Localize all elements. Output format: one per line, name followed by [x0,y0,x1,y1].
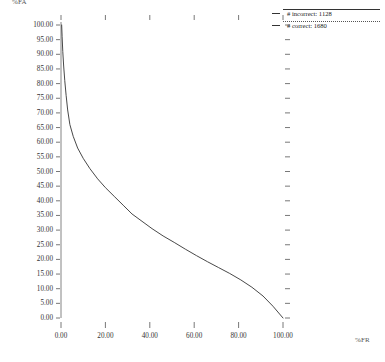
y-tick-label-17: 85.00 [7,65,53,73]
x-tick-label-4: 80.00 [219,332,259,340]
chart-legend: # incorrect: 1128 # correct: 1680 [283,9,380,31]
x-tick-label-1: 20.00 [85,332,125,340]
y-tick-label-3: 15.00 [7,270,53,278]
y-tick-label-16: 80.00 [7,80,53,88]
y-tick-label-11: 55.00 [7,153,53,161]
legend-label-correct: # correct: 1680 [287,23,327,30]
legend-key-solid-icon [272,13,280,14]
x-tick-label-2: 40.00 [130,332,170,340]
x-tick-label-5: 100.00 [263,332,303,340]
y-tick-label-5: 25.00 [7,241,53,249]
chart-container: %FA %FR 0.005.0010.0015.0020.0025.0030.0… [0,0,385,362]
y-tick-label-20: 100.00 [7,21,53,29]
y-tick-label-13: 65.00 [7,124,53,132]
y-tick-label-0: 0.00 [7,314,53,322]
y-tick-label-10: 50.00 [7,168,53,176]
y-tick-label-7: 35.00 [7,211,53,219]
y-tick-label-4: 20.00 [7,255,53,263]
y-tick-label-18: 90.00 [7,50,53,58]
legend-item-incorrect: # incorrect: 1128 [283,9,380,19]
y-tick-label-1: 5.00 [7,299,53,307]
tick-marks [56,15,290,328]
legend-item-correct: # correct: 1680 [283,21,380,31]
y-tick-label-9: 45.00 [7,182,53,190]
x-tick-label-3: 60.00 [174,332,214,340]
y-tick-label-2: 10.00 [7,285,53,293]
plot-area [0,0,385,362]
y-tick-label-6: 30.00 [7,226,53,234]
legend-label-incorrect: # incorrect: 1128 [287,11,332,18]
legend-key-dash-icon [272,25,280,26]
y-tick-label-19: 95.00 [7,36,53,44]
y-tick-label-14: 70.00 [7,109,53,117]
series-paths [62,25,283,318]
y-tick-label-12: 60.00 [7,138,53,146]
y-tick-label-15: 75.00 [7,94,53,102]
y-tick-label-8: 40.00 [7,197,53,205]
x-tick-label-0: 0.00 [41,332,81,340]
series-line-0 [62,25,283,318]
